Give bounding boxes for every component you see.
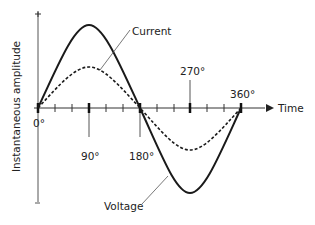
- voltage-callout-line: [142, 176, 168, 204]
- voltage-label: Voltage: [104, 200, 143, 212]
- current-label: Current: [132, 25, 171, 37]
- tick-label-270: 270°: [180, 65, 205, 77]
- tick-label-180: 180°: [129, 150, 154, 162]
- time-label: Time: [277, 102, 304, 114]
- waveform-diagram: Current Voltage Time 0° 90° 180° 270° 36…: [0, 0, 315, 225]
- tick-label-90: 90°: [81, 150, 100, 162]
- arrow-right-icon: [266, 104, 274, 112]
- y-axis-label: Instantaneous amplitude: [10, 41, 22, 172]
- tick-label-0: 0°: [33, 117, 45, 129]
- tick-label-360: 360°: [230, 88, 255, 100]
- voltage-curve: [38, 25, 241, 193]
